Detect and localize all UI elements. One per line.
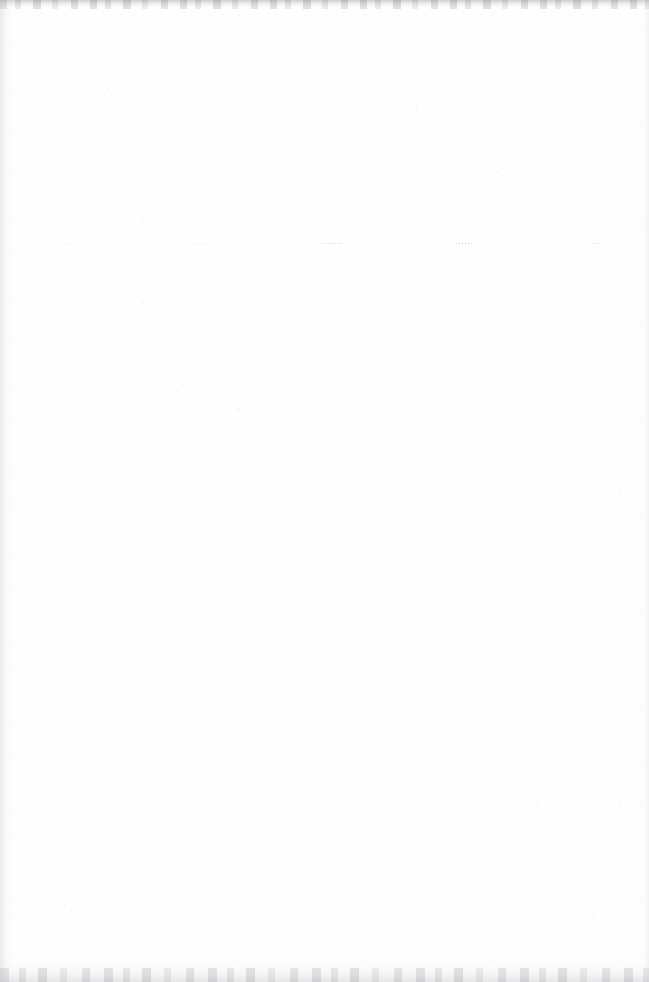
faint-text-line: ······ ······· ······· ······ ·····: [0, 238, 649, 254]
faint-text-mark-1: ······: [58, 238, 102, 249]
faint-text-mark-3: ·······: [322, 238, 374, 249]
faint-text-mark-4: ······: [455, 238, 502, 249]
faint-text-mark-2: ·······: [188, 238, 242, 249]
paper-background: [0, 0, 649, 982]
scanned-page: ······ ······· ······· ······ ·····: [0, 0, 649, 982]
faint-text-mark-5: ·····: [588, 238, 627, 249]
